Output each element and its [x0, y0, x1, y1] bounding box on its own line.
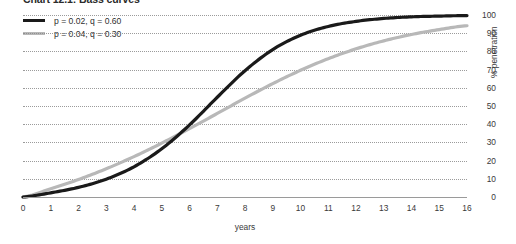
x-axis-tick-label: 5 [152, 203, 172, 213]
x-axis-labels: 012345678910111213141516 [23, 203, 467, 217]
y-axis-tick-label: 10 [470, 175, 496, 183]
series-line-1 [23, 16, 467, 197]
curve-layer [23, 15, 467, 197]
y-axis-title: % penetration [489, 26, 499, 78]
y-axis-tick-label: 40 [470, 120, 496, 128]
y-axis-tick-label: 20 [470, 157, 496, 165]
x-axis-tick-label: 10 [291, 203, 311, 213]
y-axis-tick-label: 30 [470, 138, 496, 146]
x-axis-tick-label: 15 [429, 203, 449, 213]
y-axis-tick-label: 50 [470, 102, 496, 110]
x-axis-line [23, 197, 467, 198]
x-axis-tick-label: 9 [263, 203, 283, 213]
x-axis-tick-label: 14 [402, 203, 422, 213]
chart-title: Chart 12.1: Bass curves [23, 0, 140, 5]
x-axis-tick-label: 13 [374, 203, 394, 213]
x-axis-tick-label: 16 [457, 203, 477, 213]
x-axis-tick-label: 7 [207, 203, 227, 213]
series-line-2 [23, 26, 467, 197]
x-axis-tick-label: 1 [41, 203, 61, 213]
x-axis-title: years [0, 222, 490, 232]
y-axis-tick-label: 0 [470, 193, 496, 201]
x-axis-tick-label: 6 [180, 203, 200, 213]
plot-area [23, 15, 467, 197]
chart-container: Chart 12.1: Bass curves p = 0.02, q = 0.… [0, 0, 516, 244]
x-axis-tick-label: 8 [235, 203, 255, 213]
y-axis-tick-label: 60 [470, 84, 496, 92]
x-axis-tick-label: 3 [96, 203, 116, 213]
x-axis-tick-label: 12 [346, 203, 366, 213]
x-axis-tick-label: 11 [318, 203, 338, 213]
x-axis-tick-label: 0 [13, 203, 33, 213]
x-axis-tick-label: 4 [124, 203, 144, 213]
x-axis-tick-label: 2 [69, 203, 89, 213]
y-axis-tick-label: 100 [470, 11, 496, 19]
